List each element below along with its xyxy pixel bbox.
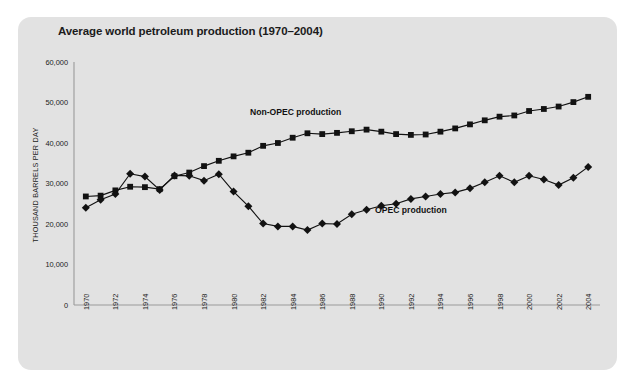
data-point-marker: [408, 132, 414, 138]
x-tick-label: 1974: [141, 294, 150, 310]
data-point-marker: [511, 113, 517, 119]
data-point-marker: [482, 117, 488, 123]
series-opec: [82, 163, 592, 234]
data-point-marker: [127, 184, 133, 190]
data-point-marker: [245, 150, 251, 156]
x-tick-label: 1970: [82, 294, 91, 310]
x-tick-label: 1992: [407, 294, 416, 310]
y-tick-labels: 10,00020,00030,00040,00050,00060,000: [45, 58, 68, 270]
x-tick-label: 1982: [259, 294, 268, 310]
data-point-marker: [481, 178, 489, 186]
data-point-marker: [378, 129, 384, 135]
data-point-marker: [541, 106, 547, 112]
y-tick-label: 60,000: [45, 58, 68, 67]
x-tick-label: 2000: [525, 294, 534, 310]
data-point-marker: [497, 114, 503, 120]
data-point-marker: [585, 94, 591, 100]
data-point-marker: [556, 104, 562, 110]
series-label-opec: OPEC production: [375, 205, 447, 215]
data-point-marker: [407, 195, 415, 203]
data-point-marker: [569, 174, 577, 182]
x-tick-label: 1980: [230, 294, 239, 310]
y-tick-label: 20,000: [45, 220, 68, 229]
data-point-marker: [275, 140, 281, 146]
x-tick-label: 1994: [436, 294, 445, 310]
data-point-marker: [510, 178, 518, 186]
data-point-marker: [451, 188, 459, 196]
data-point-marker: [452, 126, 458, 132]
data-point-marker: [540, 175, 548, 183]
origin-zero-label: 0: [64, 301, 68, 310]
data-point-marker: [260, 143, 266, 149]
data-point-marker: [466, 184, 474, 192]
data-point-marker: [525, 172, 533, 180]
x-tick-label: 2004: [584, 294, 593, 310]
data-point-marker: [436, 190, 444, 198]
data-point-marker: [571, 99, 577, 105]
data-point-marker: [216, 158, 222, 164]
data-point-marker: [584, 163, 592, 171]
data-point-marker: [438, 129, 444, 135]
data-point-marker: [349, 128, 355, 134]
figure-root: Average world petroleum production (1970…: [0, 0, 633, 384]
data-point-marker: [318, 220, 326, 228]
data-point-marker: [363, 206, 371, 214]
data-point-marker: [142, 184, 148, 190]
data-point-marker: [319, 131, 325, 137]
x-tick-label: 2002: [555, 294, 564, 310]
x-tick-label: 1984: [289, 294, 298, 310]
x-tick-label: 1996: [466, 294, 475, 310]
data-point-marker: [200, 177, 208, 185]
data-point-marker: [289, 222, 297, 230]
chart-plot-area: 10,00020,00030,00040,00050,00060,000 THO…: [0, 0, 633, 384]
x-tick-label: 1990: [377, 294, 386, 310]
y-tick-label: 40,000: [45, 139, 68, 148]
y-tick-label: 50,000: [45, 98, 68, 107]
x-tick-label: 1978: [200, 294, 209, 310]
data-point-marker: [364, 127, 370, 133]
series-label-non-opec: Non-OPEC production: [250, 107, 341, 117]
x-tick-label: 1988: [348, 294, 357, 310]
y-tick-label: 30,000: [45, 179, 68, 188]
data-point-marker: [422, 192, 430, 200]
data-point-marker: [393, 131, 399, 137]
data-point-marker: [231, 153, 237, 159]
x-axis-group: 0 19701972197419761978198019821984198619…: [64, 294, 600, 310]
y-axis-group: 10,00020,00030,00040,00050,00060,000 THO…: [31, 58, 74, 305]
data-point-marker: [82, 204, 90, 212]
data-point-marker: [496, 172, 504, 180]
data-point-marker: [290, 135, 296, 141]
data-point-marker: [555, 181, 563, 189]
data-point-marker: [526, 108, 532, 114]
data-point-marker: [274, 222, 282, 230]
y-tick-label: 10,000: [45, 260, 68, 269]
data-point-marker: [467, 121, 473, 127]
x-tick-label: 1998: [496, 294, 505, 310]
data-point-marker: [333, 220, 341, 228]
x-tick-labels: 1970197219741976197819801982198419861988…: [82, 294, 593, 310]
series-annotation-layer: Non-OPEC productionOPEC production: [250, 107, 447, 215]
x-tick-label: 1972: [111, 294, 120, 310]
y-axis-title: THOUSAND BARRELS PER DAY: [31, 128, 40, 243]
data-point-marker: [348, 210, 356, 218]
data-point-marker: [201, 163, 207, 169]
data-point-marker: [303, 226, 311, 234]
data-point-marker: [305, 130, 311, 136]
data-point-marker: [334, 130, 340, 136]
data-point-marker: [126, 170, 134, 178]
x-tick-label: 1986: [318, 294, 327, 310]
x-tick-label: 1976: [170, 294, 179, 310]
data-point-marker: [423, 132, 429, 138]
data-point-marker: [83, 194, 89, 200]
